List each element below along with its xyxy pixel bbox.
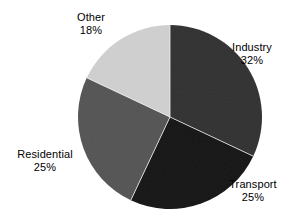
pie-label-other-name: Other: [60, 11, 122, 24]
pie-label-residential-name: Residential: [8, 148, 82, 161]
pie-chart: Other 18% Industry 32% Transport 25% Res…: [0, 0, 307, 224]
pie-label-industry-name: Industry: [218, 41, 286, 54]
pie-label-industry-value: 32%: [218, 54, 286, 67]
pie-label-transport-name: Transport: [216, 178, 290, 191]
pie-label-transport-value: 25%: [216, 191, 290, 204]
pie-label-industry: Industry 32%: [218, 41, 286, 67]
pie-label-transport: Transport 25%: [216, 178, 290, 204]
pie-label-other: Other 18%: [60, 11, 122, 37]
pie-label-residential: Residential 25%: [8, 148, 82, 174]
pie-label-residential-value: 25%: [8, 161, 82, 174]
pie-label-other-value: 18%: [60, 24, 122, 37]
